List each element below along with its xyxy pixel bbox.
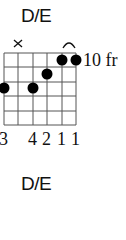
- finger-string5: 1: [57, 129, 66, 150]
- dot-string5-fret1: [57, 55, 68, 66]
- muted-x-icon: [14, 40, 22, 47]
- secondary-chord-title: D/E: [21, 173, 51, 195]
- dot-string6-fret1: [71, 55, 82, 66]
- barre-arc-icon: [63, 43, 75, 48]
- fingering-row: 3 4 2 1 1: [0, 129, 90, 151]
- finger-dots: [0, 55, 82, 94]
- finger-string3: 4: [28, 129, 37, 150]
- finger-string4: 2: [42, 129, 51, 150]
- dot-string1-fret3: [0, 83, 10, 94]
- finger-string6: 1: [71, 129, 80, 150]
- finger-string1: 3: [0, 129, 8, 150]
- dot-string4-fret2: [42, 69, 53, 80]
- dot-string3-fret3: [28, 83, 39, 94]
- start-fret-label: 10 fr: [83, 50, 118, 71]
